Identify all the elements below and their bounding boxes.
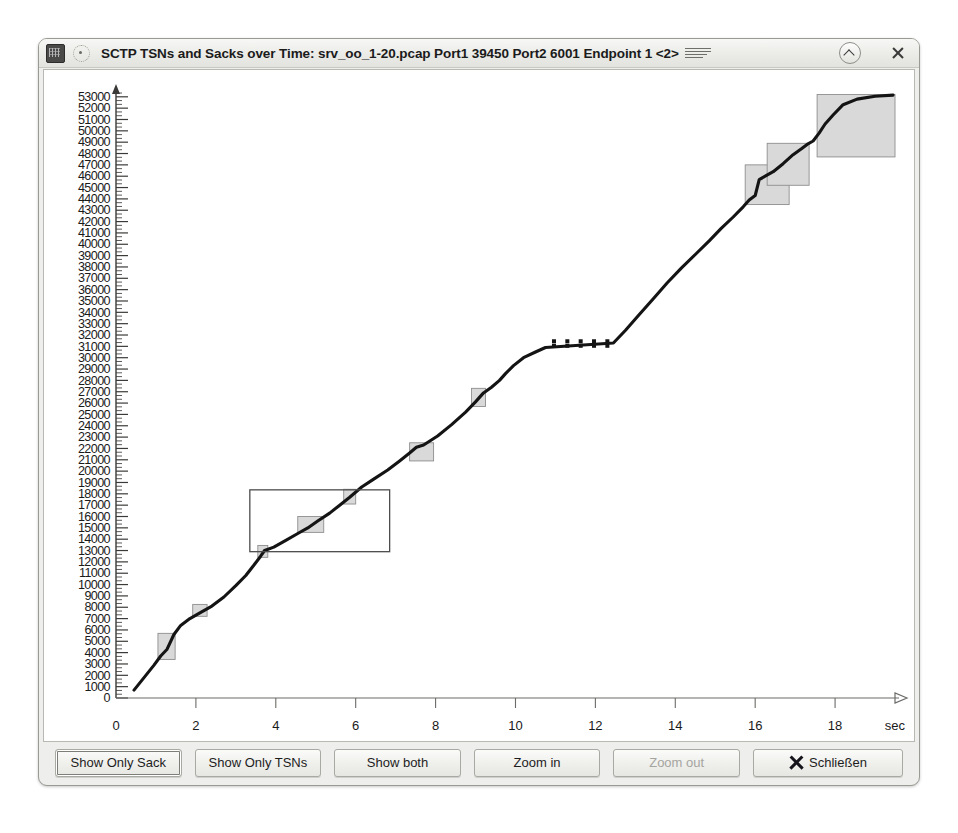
sack-marker: [552, 339, 556, 343]
show-both-button[interactable]: Show both: [334, 749, 461, 777]
gap-region: [817, 95, 895, 157]
zoom-out-button: Zoom out: [613, 749, 740, 777]
x-axis-tick-label: 4: [272, 718, 279, 733]
y-axis-tick-label: 53000: [78, 90, 111, 104]
x-axis-tick-label: 8: [432, 718, 439, 733]
window-menu-icon[interactable]: [73, 45, 90, 62]
button-bar: Show Only Sack Show Only TSNs Show both …: [39, 740, 919, 785]
sack-marker: [579, 339, 583, 343]
show-only-sack-button[interactable]: Show Only Sack: [55, 749, 182, 777]
x-axis-tick-labels: 024681012141618: [112, 718, 842, 733]
x-axis-tick-label: 6: [352, 718, 359, 733]
window-title: SCTP TSNs and Sacks over Time: srv_oo_1-…: [101, 46, 679, 61]
title-lines-icon: [685, 48, 711, 59]
zoom-in-button[interactable]: Zoom in: [474, 749, 601, 777]
show-only-tsns-label: Show Only TSNs: [209, 755, 308, 770]
close-dialog-button[interactable]: Schließen: [753, 749, 903, 777]
gap-regions: [158, 95, 895, 660]
y-axis-arrow: [112, 84, 120, 94]
x-axis-tick-label: 18: [828, 718, 842, 733]
x-axis-tick-label: 12: [588, 718, 602, 733]
close-x-icon: [789, 755, 804, 770]
zoom-out-label: Zoom out: [649, 755, 704, 770]
show-only-sack-label: Show Only Sack: [71, 755, 166, 770]
close-dialog-label: Schließen: [809, 755, 867, 770]
collapse-icon[interactable]: [839, 42, 861, 64]
x-axis-tick-label: 16: [748, 718, 762, 733]
wireshark-icon: [46, 44, 65, 63]
close-icon[interactable]: [887, 42, 909, 64]
show-both-label: Show both: [367, 755, 428, 770]
x-axis-unit-label: sec: [885, 718, 906, 733]
sack-marker: [565, 339, 569, 343]
y-axis-ticks: [116, 93, 128, 698]
x-axis-ticks: [196, 698, 835, 708]
x-axis-tick-label: 2: [192, 718, 199, 733]
x-axis-tick-label: 10: [508, 718, 522, 733]
y-axis-tick-labels: 0100020003000400050006000700080009000100…: [78, 90, 111, 705]
plot-panel[interactable]: 0100020003000400050006000700080009000100…: [43, 69, 915, 742]
x-axis-tick-label: 14: [668, 718, 682, 733]
x-axis-tick-label: 0: [112, 718, 119, 733]
title-bar[interactable]: SCTP TSNs and Sacks over Time: srv_oo_1-…: [39, 39, 919, 68]
show-only-tsns-button[interactable]: Show Only TSNs: [195, 749, 322, 777]
sctp-tsn-sack-chart[interactable]: 0100020003000400050006000700080009000100…: [44, 70, 914, 741]
sctp-graph-window: SCTP TSNs and Sacks over Time: srv_oo_1-…: [38, 38, 920, 786]
zoom-in-label: Zoom in: [514, 755, 561, 770]
